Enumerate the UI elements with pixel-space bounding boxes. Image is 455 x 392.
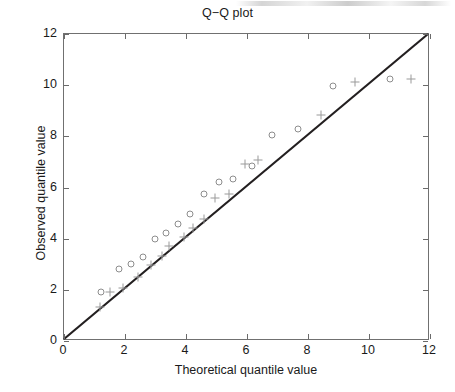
x-axis-tick	[64, 334, 65, 339]
y-axis-tick-right	[423, 290, 428, 291]
y-axis-tick	[64, 290, 69, 291]
x-tick-label: 10	[361, 343, 375, 357]
qq-plot-figure: Q−Q plot 024681012024681012 Theoretical …	[0, 0, 455, 392]
x-tick-label: 0	[60, 343, 67, 357]
y-tick-label: 2	[50, 282, 57, 296]
x-axis-tick	[186, 334, 187, 339]
x-axis-tick-top	[247, 34, 248, 39]
x-axis-tick	[247, 334, 248, 339]
y-axis-label: Observed quantile value	[34, 83, 48, 303]
y-axis-tick-right	[423, 188, 428, 189]
x-axis-tick-top	[186, 34, 187, 39]
y-axis-tick-right	[423, 34, 428, 35]
x-tick-label: 4	[182, 343, 189, 357]
y-axis-tick	[64, 188, 69, 189]
y-axis-tick-right	[423, 341, 428, 342]
x-tick-label: 12	[422, 343, 436, 357]
plot-canvas	[64, 34, 428, 339]
y-tick-label: 4	[50, 231, 57, 245]
x-axis-tick	[308, 334, 309, 339]
plot-area	[63, 33, 429, 340]
x-axis-tick-top	[125, 34, 126, 39]
y-tick-label: 8	[50, 128, 57, 142]
y-tick-label: 12	[43, 26, 57, 40]
x-axis-tick-top	[369, 34, 370, 39]
y-axis-tick	[64, 341, 69, 342]
reference-line	[64, 34, 428, 339]
y-tick-label: 0	[50, 333, 57, 347]
x-tick-label: 2	[121, 343, 128, 357]
y-axis-tick	[64, 85, 69, 86]
y-axis-tick-right	[423, 85, 428, 86]
x-axis-tick-top	[308, 34, 309, 39]
x-axis-tick	[430, 334, 431, 339]
y-axis-tick-right	[423, 136, 428, 137]
y-axis-tick-right	[423, 239, 428, 240]
y-tick-label: 6	[50, 180, 57, 194]
page-title: Q−Q plot	[0, 6, 455, 20]
x-axis-tick-top	[430, 34, 431, 39]
x-axis-tick	[369, 334, 370, 339]
x-tick-label: 8	[304, 343, 311, 357]
x-axis-label: Theoretical quantile value	[63, 363, 429, 377]
y-axis-tick	[64, 34, 69, 35]
x-tick-label: 6	[243, 343, 250, 357]
x-axis-tick	[125, 334, 126, 339]
y-axis-tick	[64, 239, 69, 240]
y-axis-tick	[64, 136, 69, 137]
